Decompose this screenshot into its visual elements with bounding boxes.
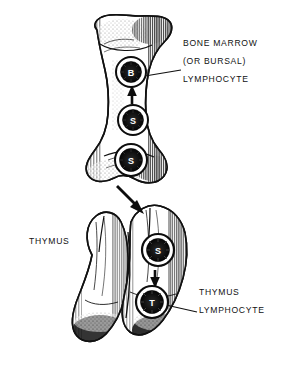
label-bone-marrow: BONE MARROW [183,39,258,48]
lymphocyte-development-figure: B S S [0,0,287,372]
label-or-bursal: (OR BURSAL) [183,57,246,66]
cell-stem-mid: S [118,105,148,135]
cell-t-lymphocyte: T [136,286,168,318]
cell-stem-low: S [115,144,147,176]
cell-letter-s-low: S [128,156,134,166]
cell-letter-b: B [128,68,135,78]
cell-letter-s-mid: S [130,116,136,126]
label-thymus-lymphocyte: LYMPHOCYTE [199,306,265,315]
cell-b-lymphocyte: B [116,57,146,87]
cell-stem-thymus: S [142,234,174,266]
label-bone-marrow-lymphocyte: LYMPHOCYTE [183,75,249,84]
cell-letter-t: T [149,298,155,308]
thymus-gland-illustration [70,200,192,350]
cell-letter-s-thymus: S [155,246,161,256]
b-cell-leader-line [145,70,181,76]
label-thymus-organ: THYMUS [29,237,69,246]
label-thymus: THYMUS [199,288,239,297]
marrow-to-thymus-arrow [117,186,144,214]
